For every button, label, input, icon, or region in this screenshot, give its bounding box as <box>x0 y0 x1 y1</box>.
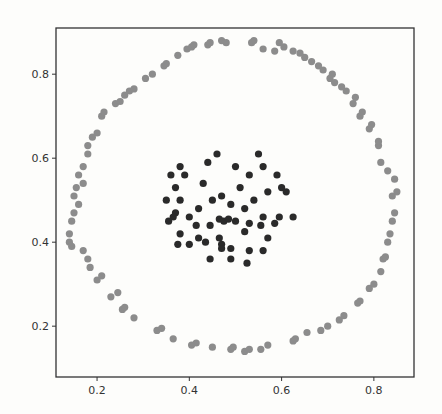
data-point <box>207 39 214 46</box>
data-point <box>87 264 94 271</box>
data-point <box>250 197 257 204</box>
data-point <box>130 85 137 92</box>
data-point <box>391 176 398 183</box>
data-point <box>177 197 184 204</box>
data-point <box>329 71 336 78</box>
data-point <box>391 209 398 216</box>
data-point <box>241 228 248 235</box>
data-point <box>290 48 297 55</box>
data-point <box>195 205 202 212</box>
data-point <box>107 293 114 300</box>
data-point <box>246 220 253 227</box>
data-point <box>257 346 264 353</box>
data-point <box>190 41 197 48</box>
data-point <box>130 314 137 321</box>
data-point <box>227 245 234 252</box>
data-point <box>218 192 225 199</box>
data-point <box>273 171 280 178</box>
data-point <box>241 205 248 212</box>
data-point <box>237 184 244 191</box>
data-point <box>66 230 73 237</box>
data-point <box>377 268 384 275</box>
data-point <box>204 159 211 166</box>
y-tick-label: 0.4 <box>32 236 50 249</box>
scatter-plot: 0.20.40.60.8 0.20.40.60.8 <box>0 0 442 414</box>
data-point <box>384 167 391 174</box>
plot-background <box>0 0 442 414</box>
data-point <box>276 39 283 46</box>
data-point <box>121 304 128 311</box>
data-point <box>163 197 170 204</box>
data-point <box>393 188 400 195</box>
data-point <box>195 234 202 241</box>
data-point <box>264 342 271 349</box>
data-point <box>370 281 377 288</box>
data-point <box>68 243 75 250</box>
data-point <box>324 323 331 330</box>
data-point <box>172 184 179 191</box>
data-point <box>70 192 77 199</box>
data-point <box>352 94 359 101</box>
data-point <box>290 213 297 220</box>
data-point <box>174 241 181 248</box>
data-point <box>356 297 363 304</box>
data-point <box>100 108 107 115</box>
data-point <box>260 45 267 52</box>
y-tick-label: 0.2 <box>32 320 50 333</box>
data-point <box>232 218 239 225</box>
data-point <box>80 180 87 187</box>
data-point <box>68 218 75 225</box>
x-tick-label: 0.8 <box>365 384 383 397</box>
data-point <box>264 188 271 195</box>
data-point <box>375 138 382 145</box>
data-point <box>389 218 396 225</box>
data-point <box>193 339 200 346</box>
data-point <box>338 83 345 90</box>
data-point <box>174 52 181 59</box>
data-point <box>177 163 184 170</box>
data-point <box>186 213 193 220</box>
data-point <box>303 329 310 336</box>
data-point <box>359 108 366 115</box>
data-point <box>243 260 250 267</box>
y-tick-label: 0.6 <box>32 152 50 165</box>
data-point <box>193 222 200 229</box>
data-point <box>283 188 290 195</box>
data-point <box>163 60 170 67</box>
data-point <box>75 171 82 178</box>
data-point <box>246 171 253 178</box>
data-point <box>246 247 253 254</box>
data-point <box>227 255 234 262</box>
data-point <box>382 253 389 260</box>
data-point <box>80 247 87 254</box>
data-point <box>84 142 91 149</box>
data-point <box>271 48 278 55</box>
data-point <box>209 344 216 351</box>
data-point <box>340 312 347 319</box>
x-tick-label: 0.4 <box>181 384 199 397</box>
data-point <box>200 180 207 187</box>
data-point <box>177 230 184 237</box>
data-point <box>276 213 283 220</box>
data-point <box>368 121 375 128</box>
data-point <box>73 184 80 191</box>
data-point <box>70 209 77 216</box>
data-point <box>271 220 278 227</box>
data-point <box>207 222 214 229</box>
data-point <box>170 335 177 342</box>
data-point <box>350 100 357 107</box>
data-point <box>384 239 391 246</box>
data-point <box>227 201 234 208</box>
data-point <box>230 344 237 351</box>
data-point <box>315 62 322 69</box>
y-tick-label: 0.8 <box>32 68 50 81</box>
data-point <box>308 58 315 65</box>
data-point <box>292 335 299 342</box>
data-point <box>75 201 82 208</box>
data-point <box>117 98 124 105</box>
data-point <box>142 75 149 82</box>
data-point <box>202 239 209 246</box>
data-point <box>296 50 303 57</box>
x-tick-label: 0.2 <box>88 384 106 397</box>
data-point <box>255 150 262 157</box>
